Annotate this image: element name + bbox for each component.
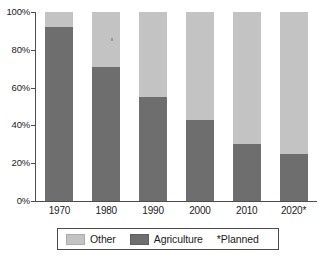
x-tick-label-1980: 1980 [83, 204, 130, 218]
bar-segment-other[interactable] [233, 12, 261, 144]
legend-item-agriculture[interactable]: Agriculture [130, 233, 203, 245]
legend-swatch-other-icon [66, 234, 85, 245]
bar-segment-agriculture[interactable] [186, 120, 214, 201]
stacked-bar-chart: 100% 80% 60% 40% 20% 0% [0, 0, 335, 259]
y-axis: 100% 80% 60% 40% 20% 0% [0, 0, 30, 220]
bar-segment-other[interactable] [280, 12, 308, 154]
legend-item-other[interactable]: Other [66, 233, 116, 245]
y-tick-label-0: 0% [0, 196, 30, 206]
scan-speck [111, 38, 113, 41]
bar-group-1970[interactable] [45, 12, 73, 201]
chart-legend: Other Agriculture *Planned [57, 228, 279, 250]
bar-group-2000[interactable] [186, 12, 214, 201]
bars-container [36, 12, 317, 201]
bar-segment-other[interactable] [139, 12, 167, 97]
plot-area: 100% 80% 60% 40% 20% 0% [0, 0, 335, 220]
bar-segment-agriculture[interactable] [233, 144, 261, 201]
y-tick-mark-0 [31, 201, 36, 202]
x-tick-label-2000: 2000 [177, 204, 224, 218]
x-tick-label-1970: 1970 [36, 204, 83, 218]
legend-label-other: Other [90, 233, 116, 245]
legend-label-agriculture: Agriculture [154, 233, 203, 245]
x-tick-label-2020: 2020* [270, 204, 317, 218]
x-tick-label-1990: 1990 [130, 204, 177, 218]
legend-swatch-agriculture-icon [130, 234, 149, 245]
y-tick-label-100: 100% [0, 7, 30, 17]
bar-group-1980[interactable] [92, 12, 120, 201]
bar-segment-agriculture[interactable] [139, 97, 167, 201]
x-axis-baseline [35, 201, 317, 202]
bar-segment-other[interactable] [45, 12, 73, 27]
bar-segment-other[interactable] [92, 12, 120, 67]
bar-segment-other[interactable] [186, 12, 214, 120]
bar-group-1990[interactable] [139, 12, 167, 201]
x-tick-label-2010: 2010 [223, 204, 270, 218]
y-tick-label-20: 20% [0, 158, 30, 168]
y-tick-label-80: 80% [0, 45, 30, 55]
bar-segment-agriculture[interactable] [92, 67, 120, 201]
x-axis: 1970 1980 1990 2000 2010 2020* [36, 204, 317, 220]
legend-footnote: *Planned [217, 233, 259, 245]
y-tick-label-40: 40% [0, 120, 30, 130]
y-tick-label-60: 60% [0, 83, 30, 93]
bar-segment-agriculture[interactable] [45, 27, 73, 201]
bar-segment-agriculture[interactable] [280, 154, 308, 201]
bar-group-2020[interactable] [280, 12, 308, 201]
bar-group-2010[interactable] [233, 12, 261, 201]
